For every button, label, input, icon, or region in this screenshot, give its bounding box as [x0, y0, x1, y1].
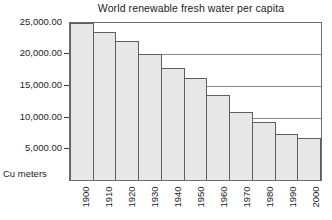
- bar[interactable]: [138, 54, 162, 180]
- x-axis-tick-label: 1970: [242, 186, 252, 207]
- x-axis: 1900 1910 1920 1930 1940 1950 1960 1970 …: [69, 183, 322, 220]
- bar[interactable]: [275, 134, 299, 180]
- x-axis-tick-label: 1910: [104, 186, 114, 207]
- bar[interactable]: [93, 32, 117, 180]
- x-axis-tick-label: 1990: [288, 186, 298, 207]
- x-axis-cell: 1960: [207, 183, 230, 220]
- bar-series: [70, 23, 321, 180]
- x-axis-cell: 1900: [69, 183, 92, 220]
- y-axis-tick-label: 25,000.00: [0, 17, 62, 27]
- x-axis-cell: 1950: [184, 183, 207, 220]
- x-axis-cell: 1920: [115, 183, 138, 220]
- y-axis: 25,000.00 20,000.00 15,000.00 10,000.00 …: [0, 0, 69, 220]
- y-axis-tick-label: 5,000.00: [0, 143, 62, 153]
- chart-title: World renewable fresh water per capita: [60, 2, 322, 15]
- x-axis-tick-label: 1900: [81, 186, 91, 207]
- x-axis-cell: 1980: [253, 183, 276, 220]
- bar-chart-figure: World renewable fresh water per capita 2…: [0, 0, 332, 220]
- bar[interactable]: [229, 112, 253, 180]
- plot-area: [69, 22, 322, 181]
- x-axis-cell: 1910: [92, 183, 115, 220]
- x-axis-tick-label: 2000: [311, 186, 321, 207]
- bar[interactable]: [70, 23, 94, 180]
- x-axis-tick-label: 1950: [196, 186, 206, 207]
- bar[interactable]: [184, 78, 208, 180]
- x-axis-cell: 1940: [161, 183, 184, 220]
- bar[interactable]: [206, 95, 230, 180]
- x-axis-tick-label: 1940: [173, 186, 183, 207]
- bar[interactable]: [252, 122, 276, 180]
- bar[interactable]: [297, 138, 321, 180]
- x-axis-cell: 1990: [276, 183, 299, 220]
- bar[interactable]: [161, 68, 185, 180]
- x-axis-cell: 1970: [230, 183, 253, 220]
- y-axis-unit-label: Cu meters: [3, 168, 47, 179]
- x-axis-tick-label: 1960: [219, 186, 229, 207]
- x-axis-tick-label: 1930: [150, 186, 160, 207]
- x-axis-cell: 2000: [299, 183, 322, 220]
- x-axis-tick-label: 1920: [127, 186, 137, 207]
- bar[interactable]: [115, 41, 139, 180]
- x-axis-tick-label: 1980: [265, 186, 275, 207]
- y-axis-tick-label: 15,000.00: [0, 80, 62, 90]
- y-axis-tick-label: 10,000.00: [0, 112, 62, 122]
- x-axis-cell: 1930: [138, 183, 161, 220]
- y-axis-tick-label: 20,000.00: [0, 48, 62, 58]
